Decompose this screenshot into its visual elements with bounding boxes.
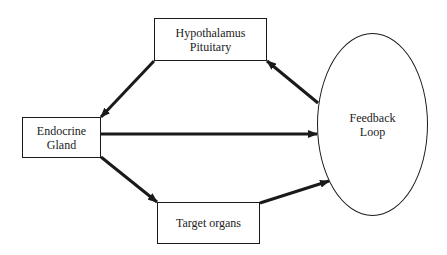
node-feedback-line1: Feedback — [350, 111, 396, 125]
node-hypothalamus-line1: Hypothalamus — [176, 26, 246, 40]
node-endocrine-line1: Endocrine — [37, 124, 86, 138]
node-feedback-loop: Feedback Loop — [317, 33, 428, 216]
node-hypothalamus-pituitary: Hypothalamus Pituitary — [154, 18, 267, 61]
arrow-hypothalamus-to-endocrine — [101, 61, 154, 117]
arrow-target-to-feedback — [260, 181, 329, 203]
arrow-endocrine-to-target — [101, 157, 157, 202]
node-hypothalamus-line2: Pituitary — [190, 40, 231, 54]
arrow-feedback-to-hypothalamus — [267, 61, 318, 103]
node-target-organs: Target organs — [157, 202, 260, 244]
node-feedback-line2: Loop — [360, 125, 385, 139]
node-endocrine-line2: Gland — [47, 138, 76, 152]
node-target-label: Target organs — [176, 216, 241, 230]
node-endocrine-gland: Endocrine Gland — [22, 117, 101, 158]
